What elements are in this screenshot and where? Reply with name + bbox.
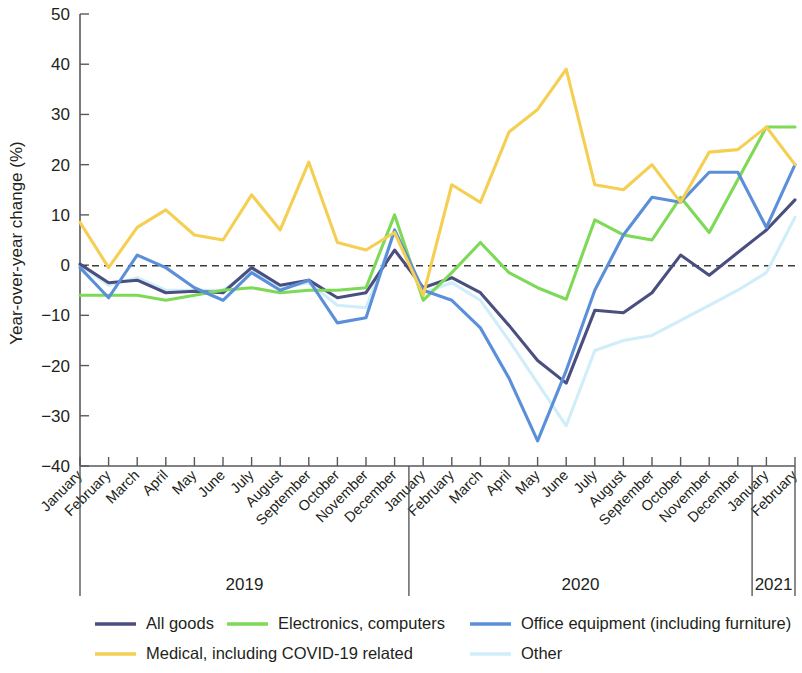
x-axis-ticks (80, 457, 795, 466)
y-axis-title: Year-over-year change (%) (7, 141, 26, 344)
series-line-electronics-computers (80, 127, 795, 300)
year-group-label: 2020 (562, 575, 600, 594)
y-tick-label: 30 (51, 105, 70, 124)
x-axis-month-label: April (139, 467, 171, 499)
legend-label: All goods (146, 614, 214, 632)
x-axis-month-label: May (169, 466, 200, 497)
year-group-label: 2021 (755, 575, 793, 594)
y-tick-label: 50 (51, 5, 70, 24)
chart-legend: All goodsElectronics, computersOffice eq… (95, 614, 791, 662)
legend-label: Other (521, 644, 563, 662)
legend-item[interactable]: Electronics, computers (227, 614, 445, 632)
legend-label: Medical, including COVID-19 related (146, 644, 413, 662)
y-tick-label: 10 (51, 206, 70, 225)
x-axis-month-label: June (538, 467, 572, 501)
y-tick-label: 0 (61, 256, 70, 275)
y-tick-label: 20 (51, 156, 70, 175)
x-axis-month-label: May (512, 466, 543, 497)
legend-item[interactable]: Medical, including COVID-19 related (95, 644, 413, 662)
legend-item[interactable]: All goods (95, 614, 214, 632)
legend-item[interactable]: Office equipment (including furniture) (470, 614, 791, 632)
legend-label: Electronics, computers (278, 614, 445, 632)
y-tick-label: −40 (41, 457, 70, 476)
x-axis-month-label: March (103, 467, 143, 507)
legend-item[interactable]: Other (470, 644, 563, 662)
y-tick-label: −10 (41, 306, 70, 325)
legend-label: Office equipment (including furniture) (521, 614, 791, 632)
series-line-other (80, 217, 795, 425)
x-axis-month-label: June (195, 467, 229, 501)
line-chart: Year-over-year change (%) 50403020100−10… (0, 0, 802, 673)
data-series-group (80, 69, 795, 441)
x-axis-month-labels: JanuaryFebruaryMarchAprilMayJuneJulyAugu… (37, 466, 800, 528)
y-tick-label: −30 (41, 407, 70, 426)
x-axis-month-label: April (482, 467, 514, 499)
y-axis-title-text: Year-over-year change (%) (7, 141, 26, 344)
y-tick-label: 40 (51, 55, 70, 74)
y-tick-label: −20 (41, 357, 70, 376)
year-group-label: 2019 (226, 575, 264, 594)
chart-container: Year-over-year change (%) 50403020100−10… (0, 0, 802, 673)
x-axis-month-label: March (446, 467, 486, 507)
y-axis-ticks: 50403020100−10−20−30−40 (41, 5, 89, 476)
